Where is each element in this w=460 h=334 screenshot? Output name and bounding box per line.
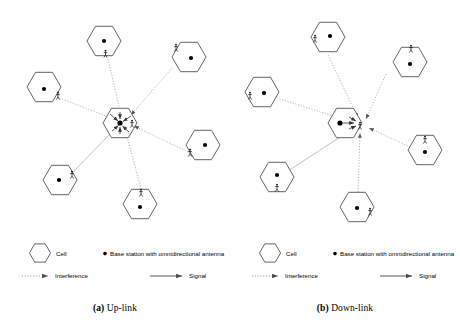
legend-cell-label: Cell (56, 250, 67, 257)
caption-label: (a) (93, 303, 104, 313)
panel-down-link: Cell Base station with omnidirectional a… (230, 0, 460, 334)
neighbor-cell (172, 42, 206, 71)
caption-text: Up-link (107, 303, 137, 313)
legend-signal-label: Signal (189, 272, 206, 279)
legend-base-station-label: Base station with omnidirectional antenn… (340, 250, 455, 257)
interference-line (358, 133, 360, 192)
base-station-dot (57, 178, 61, 182)
base-station-dot (189, 56, 193, 60)
legend-base-station-label: Base station with omnidirectional antenn… (110, 250, 225, 257)
neighbor-cell (43, 165, 77, 194)
neighbor-cell (123, 189, 157, 219)
up-link-diagram: Cell Base station with omnidirectional a… (0, 0, 230, 295)
interference-line (366, 74, 386, 119)
caption-text: Down-link (331, 303, 373, 313)
serving-cell (328, 108, 362, 137)
neighbor-cell (260, 162, 294, 191)
neighbor-cell (87, 26, 121, 57)
base-station-dot (328, 34, 332, 38)
base-station-dot (423, 150, 427, 154)
caption-label: (b) (317, 303, 329, 313)
panel-up-link: Cell Base station with omnidirectional a… (0, 0, 230, 334)
neighbor-cell (393, 45, 427, 77)
legend-interference-label: Interference (55, 272, 89, 279)
legend-up-link: Cell Base station with omnidirectional a… (22, 244, 225, 280)
base-station-dot (275, 173, 279, 177)
base-station-dot (117, 120, 122, 125)
interference-line (369, 128, 410, 147)
neighbor-cell (27, 72, 61, 101)
base-station-dot (138, 205, 142, 209)
base-station-dot (262, 91, 266, 95)
base-station-dot (337, 120, 342, 125)
caption-up-link: (a) Up-link (0, 302, 230, 315)
legend-cell-icon (259, 244, 280, 262)
legend-base-station-icon (103, 252, 107, 256)
legend-interference-label: Interference (285, 272, 319, 279)
base-station-dot (42, 87, 46, 91)
base-station-dot (203, 143, 207, 147)
legend-cell-icon (29, 244, 50, 262)
interference-line (126, 133, 142, 192)
interference-line (134, 126, 188, 152)
down-link-diagram: Cell Base station with omnidirectional a… (230, 0, 460, 295)
signal-line (70, 130, 114, 175)
legend-down-link: Cell Base station with omnidirectional a… (252, 244, 455, 280)
interference-line (131, 68, 172, 115)
caption-down-link: (b) Down-link (230, 302, 460, 315)
legend-cell-label: Cell (286, 250, 297, 257)
base-station-dot (355, 206, 359, 210)
neighbor-cell (408, 135, 442, 164)
neighbor-cell (186, 130, 220, 159)
neighbor-cell (245, 77, 279, 106)
figure-root: Cell Base station with omnidirectional a… (0, 0, 460, 334)
legend-signal-label: Signal (419, 272, 436, 279)
neighbor-cell (340, 192, 374, 221)
base-station-dot (102, 39, 106, 43)
interference-line (57, 97, 114, 119)
base-station-dot (408, 62, 412, 66)
neighbor-cell (311, 22, 345, 51)
legend-base-station-icon (333, 252, 337, 256)
serving-cell (103, 108, 137, 137)
